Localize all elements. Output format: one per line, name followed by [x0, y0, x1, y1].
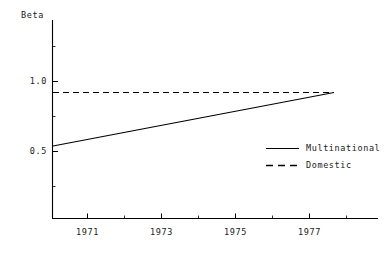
series-line-multinational: [53, 93, 334, 147]
x-axis-tick-label-4: 1977: [284, 228, 335, 237]
y-axis-tick-label-1: 1.0: [0, 77, 47, 86]
legend-label-domestic: Domestic: [306, 161, 352, 170]
x-axis-tick-label-1: 1971: [62, 228, 113, 237]
y-axis-title: Beta: [21, 11, 44, 20]
y-axis-tick-label-2: 0.5: [0, 147, 47, 156]
x-axis-tick-label-2: 1973: [136, 228, 187, 237]
legend-label-multinational: Multinational: [306, 144, 380, 153]
chart-canvas: [0, 0, 392, 259]
x-axis-tick-label-3: 1975: [210, 228, 261, 237]
beta-line-chart: Beta 1.0 0.5 1971 1973 1975 1977 Multina…: [0, 0, 392, 259]
